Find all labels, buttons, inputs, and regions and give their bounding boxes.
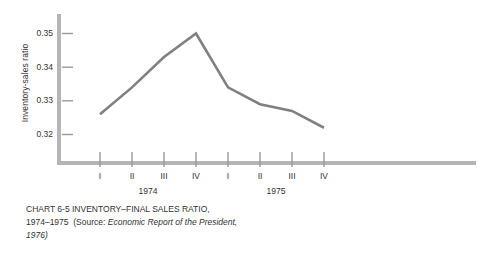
caption-title: INVENTORY–FINAL SALES RATIO, <box>72 204 210 214</box>
y-tick-marks <box>62 34 73 135</box>
year-group-label-1974: 1974 <box>123 186 173 196</box>
x-tick-label-1975-q3: III <box>280 171 304 181</box>
y-tick-label-0.35: 0.35 <box>19 28 53 38</box>
x-tick-label-1974-q3: III <box>152 171 176 181</box>
caption-years: 1974–1975 <box>26 217 69 227</box>
y-tick-label-0.34: 0.34 <box>19 62 53 72</box>
year-group-label-1975: 1975 <box>251 186 301 196</box>
caption-source-title: Economic Report of the President, <box>108 217 237 227</box>
x-tick-label-1975-q4: IV <box>312 171 336 181</box>
data-series-line <box>100 34 324 128</box>
caption-source-year: 1976) <box>26 230 48 240</box>
caption-chart-number: CHART 6-5 <box>26 204 70 214</box>
x-tick-label-1975-q2: II <box>248 171 272 181</box>
chart-figure: Inventory-sales ratio 0.35 0.34 0.33 0.3… <box>0 0 498 257</box>
caption-source-open: (Source: <box>73 217 105 227</box>
x-tick-label-1975-q1: I <box>216 171 240 181</box>
y-tick-label-0.33: 0.33 <box>19 95 53 105</box>
x-tick-label-1974-q2: II <box>120 171 144 181</box>
y-tick-label-0.32: 0.32 <box>19 129 53 139</box>
x-tick-label-1974-q4: IV <box>184 171 208 181</box>
chart-plot-area <box>0 0 498 200</box>
chart-caption: CHART 6-5 INVENTORY–FINAL SALES RATIO, 1… <box>26 203 356 243</box>
x-tick-label-1974-q1: I <box>88 171 112 181</box>
